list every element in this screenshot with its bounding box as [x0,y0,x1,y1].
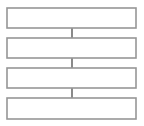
process-box[interactable] [7,8,136,28]
process-box[interactable] [7,98,136,119]
flow-node[interactable] [7,98,136,119]
process-box[interactable] [7,38,136,58]
flow-node[interactable] [7,68,136,88]
flowchart-canvas [0,0,144,126]
process-box[interactable] [7,68,136,88]
flowchart-svg [0,0,144,126]
flow-node[interactable] [7,8,136,28]
flow-node[interactable] [7,38,136,58]
